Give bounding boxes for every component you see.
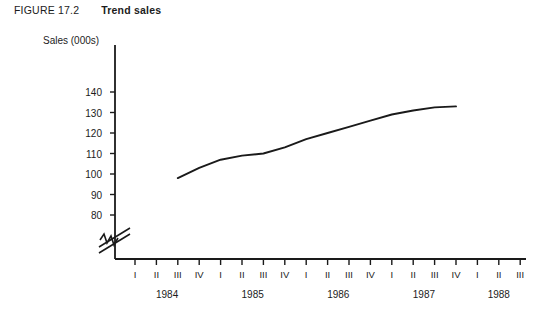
year-label: 1984: [142, 289, 192, 300]
figure-container: FIGURE 17.2Trend sales Sales (000s) 8090…: [0, 0, 539, 313]
x-tick-label: III: [253, 269, 273, 280]
x-tick-label: IV: [189, 269, 209, 280]
x-tick-label: IV: [275, 269, 295, 280]
x-tick-label: I: [467, 269, 487, 280]
x-tick-label: II: [403, 269, 423, 280]
x-tick-label: II: [318, 269, 338, 280]
x-tick-label: I: [296, 269, 316, 280]
x-tick-label: IV: [446, 269, 466, 280]
year-label: 1988: [474, 289, 524, 300]
y-tick-label: 130: [76, 107, 102, 118]
y-tick-label: 110: [76, 148, 102, 159]
x-tick-label: I: [382, 269, 402, 280]
y-tick-label: 100: [76, 169, 102, 180]
x-tick-label: III: [339, 269, 359, 280]
y-tick-label: 90: [76, 189, 102, 200]
year-label: 1987: [399, 289, 449, 300]
y-tick-label: 120: [76, 128, 102, 139]
x-tick-label: III: [168, 269, 188, 280]
x-tick-label: II: [489, 269, 509, 280]
x-tick-label: II: [146, 269, 166, 280]
x-tick-label: III: [425, 269, 445, 280]
x-tick-label: IV: [360, 269, 380, 280]
year-label: 1986: [313, 289, 363, 300]
x-tick-label: I: [211, 269, 231, 280]
x-tick-label: III: [510, 269, 530, 280]
x-tick-label: II: [232, 269, 252, 280]
x-tick-label: I: [125, 269, 145, 280]
y-tick-label: 140: [76, 87, 102, 98]
y-tick-label: 80: [76, 210, 102, 221]
year-label: 1985: [228, 289, 278, 300]
trend-line-series: [178, 106, 456, 178]
